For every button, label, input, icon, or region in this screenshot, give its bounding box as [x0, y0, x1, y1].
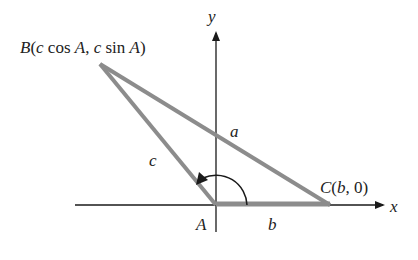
point-C-rest: , 0) [346, 178, 369, 197]
side-a [100, 64, 330, 205]
point-B-A2: A [129, 38, 141, 57]
point-B-close: ) [140, 38, 146, 57]
point-B-A1: A [74, 38, 86, 57]
triangle-diagram: y x B(c cos A, c sin A) C(b, 0) A a b c [0, 0, 418, 260]
point-B-label: B(c cos A, c sin A) [20, 38, 146, 57]
point-B-cos: cos [44, 38, 75, 57]
y-axis-label: y [206, 7, 216, 26]
point-B-sin: sin [101, 38, 129, 57]
side-b-label: b [268, 215, 277, 234]
point-A-label: A [195, 215, 207, 234]
side-c-label: c [149, 151, 157, 170]
point-C-label: C(b, 0) [320, 178, 368, 197]
triangle [100, 64, 330, 205]
side-a-label: a [230, 122, 239, 141]
point-B-letter: B [20, 38, 31, 57]
point-C-letter: C [320, 178, 332, 197]
angle-A-arc-arrow-icon [203, 175, 247, 205]
x-axis-label: x [389, 197, 398, 216]
point-C-b: b [337, 178, 346, 197]
arc-arrowhead-icon [196, 172, 208, 185]
point-B-comma: , [85, 38, 94, 57]
